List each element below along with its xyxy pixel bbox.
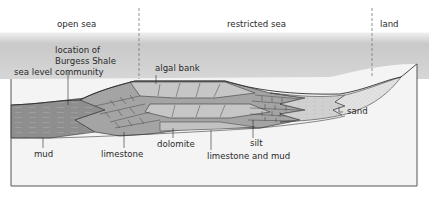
zone-label-open-sea: open sea — [57, 19, 96, 29]
zone-label-restricted-sea: restricted sea — [227, 19, 286, 29]
label-burgess-line3: community — [55, 67, 103, 77]
label-burgess-line1: location of — [55, 45, 101, 55]
label-sea-level: sea level — [14, 67, 52, 77]
label-limestone: limestone — [101, 149, 143, 159]
label-dolomite: dolomite — [157, 139, 195, 149]
label-algal-bank: algal bank — [155, 63, 200, 73]
label-limestone-and-mud: limestone and mud — [207, 151, 290, 161]
burgess-shale-cross-section: open sea restricted sea land sea level l… — [0, 0, 429, 197]
label-mud: mud — [34, 149, 53, 159]
zone-label-land: land — [380, 19, 399, 29]
label-burgess-line2: Burgess Shale — [55, 56, 116, 66]
label-silt: silt — [250, 138, 263, 148]
label-sand: sand — [347, 106, 368, 116]
